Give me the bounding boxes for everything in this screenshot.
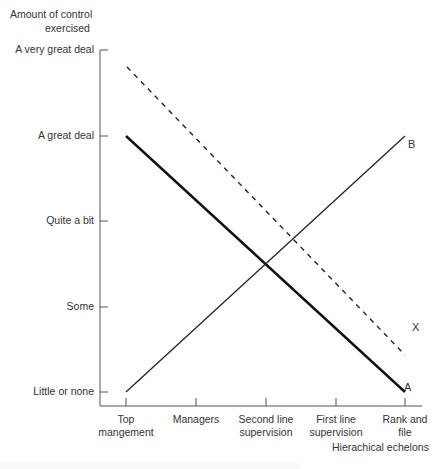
- x-tick-first-line-2: supervision: [296, 426, 376, 439]
- x-axis-title: Hierachical echelons: [332, 441, 429, 454]
- series-a-label: A: [404, 381, 411, 394]
- chart-plot-area: [0, 0, 444, 469]
- x-tick-rank-and-file-1: Rank and: [365, 413, 444, 426]
- x-tick-second-line-1: Second line: [226, 413, 306, 426]
- x-tick-first-line-1: First line: [296, 413, 376, 426]
- x-tick-top-management-2: mangement: [86, 426, 166, 439]
- truncated-caption: [0, 462, 300, 469]
- series-b-label: B: [408, 138, 415, 151]
- series-x-line: [127, 67, 405, 355]
- x-tick-managers: Managers: [156, 413, 236, 426]
- x-tick-top-management-1: Top: [86, 413, 166, 426]
- series-x-label: X: [412, 321, 419, 334]
- x-tick-rank-and-file-2: file: [365, 426, 444, 439]
- x-tick-second-line-2: supervision: [226, 426, 306, 439]
